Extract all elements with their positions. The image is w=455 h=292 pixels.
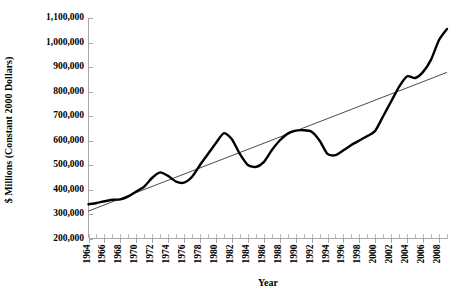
y-tick-label: 600,000: [53, 135, 84, 145]
y-axis-title: $ Millions (Constant 2000 Dollars): [3, 57, 15, 204]
x-tick-label: 2002: [384, 244, 394, 263]
x-tick-label: 1972: [145, 244, 155, 263]
x-axis-title: Year: [258, 277, 279, 288]
x-tick-label: 1996: [336, 244, 346, 263]
y-tick-label: 400,000: [53, 184, 84, 194]
y-tick-label: 900,000: [53, 61, 84, 71]
x-axis-tick-labels: 1964196619681970197219741976197819801982…: [82, 244, 442, 263]
chart-canvas: 200,000300,000400,000500,000600,000700,0…: [0, 0, 455, 292]
y-tick-label: 1,100,000: [46, 12, 84, 22]
x-tick-label: 1978: [193, 244, 203, 263]
x-tick-label: 1998: [352, 244, 362, 263]
x-tick-label: 1980: [209, 244, 219, 263]
x-tick-label: 1976: [177, 244, 187, 263]
x-tick-label: 1970: [129, 244, 139, 263]
x-tick-label: 1984: [241, 244, 251, 263]
x-tick-label: 1966: [97, 244, 107, 263]
y-tick-label: 1,000,000: [46, 37, 84, 47]
y-axis-ticks: [89, 19, 93, 240]
x-axis-minor-ticks: [90, 234, 448, 239]
chart-figure: 200,000300,000400,000500,000600,000700,0…: [0, 0, 455, 292]
y-tick-label: 300,000: [53, 208, 84, 218]
x-tick-label: 1990: [289, 244, 299, 263]
x-tick-label: 1992: [305, 244, 315, 263]
x-tick-label: 1974: [161, 244, 171, 263]
x-tick-label: 2004: [400, 244, 410, 263]
y-tick-label: 500,000: [53, 159, 84, 169]
y-tick-label: 700,000: [53, 110, 84, 120]
trend-line-series: [89, 72, 448, 211]
x-tick-label: 2000: [368, 244, 378, 263]
x-tick-label: 1988: [273, 244, 283, 263]
x-tick-label: 2008: [432, 244, 442, 263]
x-tick-label: 1986: [257, 244, 267, 263]
y-tick-label: 200,000: [53, 233, 84, 243]
x-tick-label: 1964: [82, 244, 92, 263]
x-tick-label: 1968: [113, 244, 123, 263]
x-tick-label: 1982: [225, 244, 235, 263]
x-tick-label: 1994: [321, 244, 331, 263]
data-line-series: [89, 29, 448, 204]
y-tick-label: 800,000: [53, 86, 84, 96]
x-tick-label: 2006: [416, 244, 426, 263]
y-axis-tick-labels: 200,000300,000400,000500,000600,000700,0…: [46, 12, 84, 243]
x-axis-ticks: [90, 239, 440, 243]
